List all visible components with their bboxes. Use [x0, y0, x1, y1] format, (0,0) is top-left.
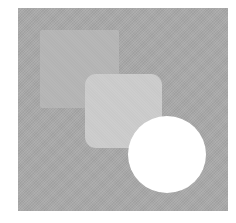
- canvas: [0, 0, 236, 223]
- front-circle-shape: [128, 116, 206, 193]
